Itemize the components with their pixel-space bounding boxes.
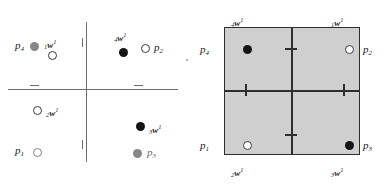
- x-axis-tick-right: [134, 85, 143, 86]
- w1-marker: [48, 51, 57, 60]
- p4-marker-sq: [243, 45, 252, 54]
- x-axis-tick-left: [30, 85, 39, 86]
- square-tick-bottom-center: [285, 134, 297, 136]
- square-tick-mid-left: [245, 84, 247, 96]
- y-axis-tick-lower: [82, 140, 83, 149]
- label-p4: p4: [15, 40, 24, 53]
- label-p3-sq: p3: [363, 140, 372, 153]
- p4-marker: [30, 42, 39, 51]
- p3-marker: [133, 149, 142, 158]
- label-p2-sq: p2: [363, 44, 372, 57]
- square-tick-mid-right: [343, 84, 345, 96]
- w4-marker: [119, 48, 128, 57]
- label-w1-sq: 1w1: [331, 17, 344, 29]
- label-w1: 1w1: [44, 39, 57, 51]
- label-w4: 4w1: [114, 32, 127, 44]
- label-p1-sq: p1: [200, 140, 209, 153]
- label-p1: p1: [15, 145, 24, 158]
- p1-marker-sq: [243, 141, 252, 150]
- y-axis: [86, 22, 87, 162]
- w3-marker: [136, 122, 145, 131]
- label-p3: p3: [147, 147, 156, 160]
- label-p4-sq: p4: [200, 44, 209, 57]
- p3-marker-sq: [345, 141, 354, 150]
- label-p2: p2: [154, 42, 163, 55]
- p2-marker: [141, 44, 150, 53]
- label-w2: 2w1: [46, 107, 59, 119]
- x-axis: [8, 89, 178, 90]
- p2-marker-sq: [345, 45, 354, 54]
- p1-marker: [33, 148, 42, 157]
- label-w3: 3w1: [149, 124, 162, 136]
- label-w4-sq: 4w1: [231, 17, 244, 29]
- w2-marker: [33, 106, 42, 115]
- dust-speck-icon: [186, 59, 188, 61]
- label-w2-sq: 2w1: [231, 167, 244, 179]
- label-w3-sq: 3w1: [331, 167, 344, 179]
- square-tick-top-center: [285, 48, 297, 50]
- figure-canvas: p4 1w1 4w1 p2 2w1 3w1 p1 p3 4w1 1w1 2w1 …: [0, 0, 386, 189]
- y-axis-tick-upper: [82, 38, 83, 47]
